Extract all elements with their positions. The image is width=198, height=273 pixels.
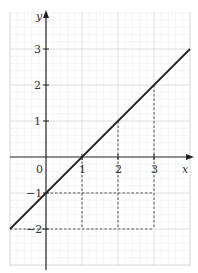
y-tick-2: 2 [34,79,41,92]
data-line [10,49,190,229]
y-tick-1: 1 [34,115,41,128]
x-tick-1: 1 [79,163,86,176]
x-axis-label: x [182,163,189,176]
ticks [43,49,154,229]
chart: y x 0 1 2 3 3 2 1 −1 −2 [0,0,198,273]
y-tick-3: 3 [34,43,41,56]
x-tick-2: 2 [115,163,122,176]
y-tick-neg2: −2 [26,223,42,236]
y-axis-arrow-icon [43,10,49,18]
y-tick-neg1: −1 [26,187,42,200]
y-axis-label: y [35,10,43,23]
x-tick-3: 3 [151,163,158,176]
origin-label: 0 [36,163,43,176]
